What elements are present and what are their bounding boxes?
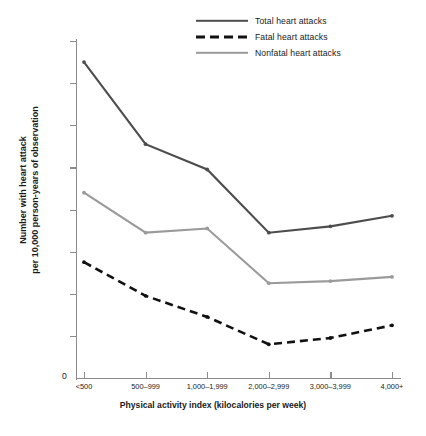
data-point bbox=[267, 231, 271, 235]
data-point bbox=[144, 231, 148, 235]
data-point bbox=[390, 275, 394, 279]
data-point bbox=[329, 279, 333, 283]
data-point bbox=[205, 315, 209, 319]
data-point bbox=[82, 191, 86, 195]
data-point bbox=[390, 214, 394, 218]
x-axis-title: Physical activity index (kilocalories pe… bbox=[0, 400, 426, 410]
data-point bbox=[390, 323, 394, 327]
y-axis-title-line1: Number with heart attack bbox=[17, 65, 29, 315]
y-axis-title-line2: per 10,000 person-years of observation bbox=[29, 65, 41, 315]
data-point bbox=[329, 336, 333, 340]
data-point bbox=[144, 294, 148, 298]
data-point bbox=[329, 224, 333, 228]
data-point bbox=[267, 281, 271, 285]
data-point bbox=[267, 342, 271, 346]
data-point bbox=[205, 168, 209, 172]
data-point bbox=[144, 142, 148, 146]
data-point bbox=[82, 260, 86, 264]
series-line bbox=[84, 62, 392, 233]
series-line bbox=[84, 262, 392, 344]
y-axis-title: Number with heart attack per 10,000 pers… bbox=[17, 65, 41, 315]
chart-plot-area bbox=[0, 0, 426, 436]
chart-figure: Total heart attacks Fatal heart attacks … bbox=[0, 0, 426, 436]
data-point bbox=[205, 227, 209, 231]
data-point bbox=[82, 60, 86, 64]
series-line bbox=[84, 193, 392, 284]
